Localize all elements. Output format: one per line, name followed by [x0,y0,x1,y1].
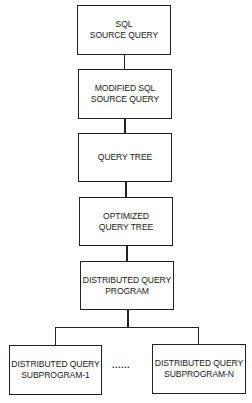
connector-branch-left [55,327,57,346]
node-modified-sql-source-query: MODIFIED SQL SOURCE QUERY [78,69,172,119]
node-label-line: DISTRIBUTED QUERY [11,359,99,370]
node-label-line: MODIFIED SQL [95,83,155,94]
node-label-line: DISTRIBUTED QUERY [83,275,171,286]
node-distributed-query-subprogram-1: DISTRIBUTED QUERY SUBPROGRAM-1 [9,345,102,395]
branch-horizontal-connector [55,327,199,329]
connector-branch-right [198,327,200,345]
connector-4-5 [126,245,128,261]
connector-3-4 [125,181,127,197]
node-label-line: PROGRAM [105,286,149,297]
node-distributed-query-program: DISTRIBUTED QUERY PROGRAM [80,261,174,310]
connector-5-branch [127,309,129,327]
node-label-line: QUERY TREE [98,152,152,163]
node-label-line: QUERY TREE [99,222,153,233]
node-label-line: SUBPROGRAM-N [164,369,234,380]
node-label-line: SUBPROGRAM-1 [21,370,90,381]
node-label-line: SQL [116,19,133,30]
connector-1-2 [124,54,126,69]
node-query-tree: QUERY TREE [78,133,172,182]
node-distributed-query-subprogram-n: DISTRIBUTED QUERY SUBPROGRAM-N [152,344,246,394]
ellipsis-more-subprograms: ...... [112,360,130,370]
node-label-line: OPTIMIZED [103,211,149,222]
connector-2-3 [124,118,126,133]
node-label-line: DISTRIBUTED QUERY [155,358,243,369]
node-label-line: SOURCE QUERY [91,94,159,105]
node-label-line: SOURCE QUERY [90,30,158,41]
node-optimized-query-tree: OPTIMIZED QUERY TREE [79,197,173,246]
node-sql-source-query: SQL SOURCE QUERY [77,5,171,55]
